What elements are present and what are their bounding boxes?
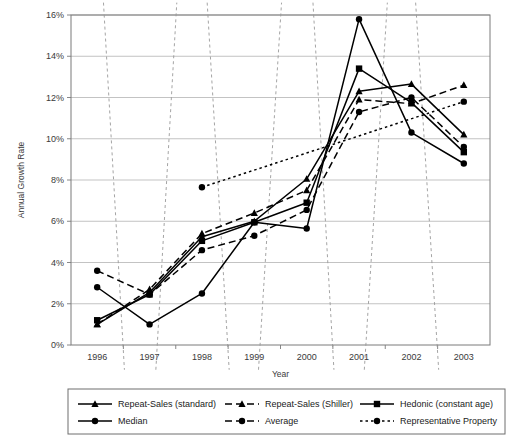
data-point [461, 98, 467, 104]
representative-property-guides [103, 3, 438, 370]
x-tick-label: 2000 [297, 352, 317, 362]
x-tick-label: 1996 [87, 352, 107, 362]
data-point [94, 284, 100, 290]
legend-label-1: Repeat-Sales (standard) [118, 399, 216, 409]
legend: Repeat-Sales (standard)Repeat-Sales (Shi… [68, 389, 505, 434]
x-tick-label: 1998 [192, 352, 212, 362]
y-tick-label: 14% [46, 51, 64, 61]
legend-label-2: Repeat-Sales (Shiller) [265, 399, 353, 409]
x-tick-label: 2001 [349, 352, 369, 362]
data-point [408, 94, 414, 100]
y-gridlines: 0%2%4%6%8%10%12%14%16% [46, 10, 490, 350]
data-point [356, 109, 362, 115]
legend-marker-4 [92, 418, 98, 424]
data-point [198, 230, 205, 237]
x-tick-label: 2002 [401, 352, 421, 362]
legend-marker-3 [374, 401, 380, 407]
series-4 [94, 16, 467, 328]
series-line [97, 19, 464, 324]
data-point [146, 291, 152, 297]
data-point [408, 129, 414, 135]
data-point [356, 16, 362, 22]
data-point [199, 184, 205, 190]
y-tick-label: 10% [46, 134, 64, 144]
y-tick-label: 6% [51, 216, 64, 226]
y-tick-label: 12% [46, 93, 64, 103]
data-point [199, 238, 205, 244]
chart-container: 0%2%4%6%8%10%12%14%16%199619971998199920… [0, 0, 513, 442]
rep-property-segment [207, 3, 229, 370]
data-point [461, 160, 467, 166]
data-point [303, 225, 309, 231]
data-point [303, 187, 310, 194]
series-5 [94, 94, 467, 297]
data-point [251, 232, 257, 238]
legend-marker-5 [239, 418, 245, 424]
data-point [94, 268, 100, 274]
data-point [199, 247, 205, 253]
x-axis: 19961997199819992000200120022003Year [87, 345, 474, 379]
data-point [303, 207, 309, 213]
rep-property-segment [416, 3, 439, 370]
legend-label-6: Representative Property [400, 416, 498, 426]
legend-label-3: Hedonic (constant age) [400, 399, 493, 409]
rep-property-segment [259, 3, 282, 370]
y-tick-label: 8% [51, 175, 64, 185]
series-line [97, 85, 464, 324]
y-tick-label: 2% [51, 299, 64, 309]
x-axis-title: Year [272, 369, 289, 379]
rep-property-segment [364, 3, 387, 370]
legend-marker-6 [374, 418, 380, 424]
data-point [94, 317, 100, 323]
data-point [251, 219, 257, 225]
legend-label-4: Median [118, 416, 148, 426]
legend-box [68, 389, 505, 434]
x-tick-label: 2003 [454, 352, 474, 362]
series-line [97, 84, 464, 324]
data-point [460, 81, 467, 88]
y-tick-label: 0% [51, 340, 64, 350]
data-point [356, 65, 362, 71]
y-tick-label: 4% [51, 258, 64, 268]
y-tick-label: 16% [46, 10, 64, 20]
y-axis-title: Annual Growth Rate [16, 141, 26, 218]
rep-property-segment [313, 3, 334, 370]
legend-label-5: Average [265, 416, 298, 426]
data-point [146, 321, 152, 327]
growth-rate-line-chart: 0%2%4%6%8%10%12%14%16%199619971998199920… [0, 0, 513, 442]
data-point [461, 144, 467, 150]
data-point [199, 290, 205, 296]
x-tick-label: 1999 [244, 352, 264, 362]
data-point [408, 80, 415, 87]
series-3 [94, 65, 467, 323]
